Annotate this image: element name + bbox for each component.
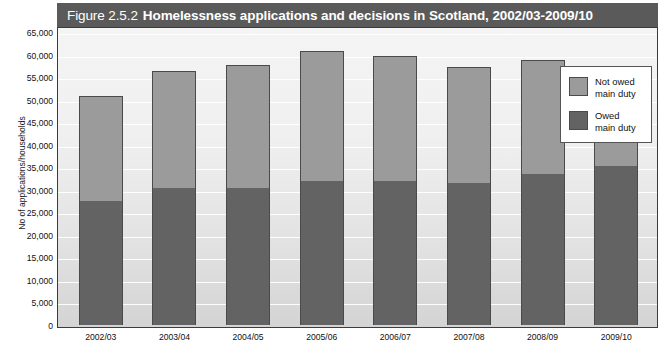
bar-segment-owed-main-duty[interactable] — [226, 188, 270, 325]
bar-segment-not-owed-main-duty[interactable] — [300, 51, 344, 181]
bar-segment-not-owed-main-duty[interactable] — [79, 96, 123, 201]
bar-segment-not-owed-main-duty[interactable] — [152, 71, 196, 187]
bar-segment-owed-main-duty[interactable] — [373, 181, 417, 325]
bar-segment-owed-main-duty[interactable] — [521, 174, 565, 325]
x-tick-label: 2003/04 — [159, 332, 190, 342]
figure-number: Figure 2.5.2 — [67, 8, 138, 23]
bar-segment-owed-main-duty[interactable] — [79, 201, 123, 325]
bar-segment-owed-main-duty[interactable] — [447, 183, 491, 325]
y-tick-label: 25,000 — [1, 208, 53, 218]
legend-label-not-owed-line1: Not owed — [595, 76, 635, 87]
gridline — [58, 304, 657, 305]
y-tick-label: 65,000 — [1, 28, 53, 38]
bar-segment-not-owed-main-duty[interactable] — [226, 65, 270, 188]
x-tick-label: 2007/08 — [453, 332, 484, 342]
gridline — [58, 147, 657, 148]
y-tick-label: 50,000 — [1, 96, 53, 106]
legend-swatch-not-owed-icon — [569, 77, 588, 96]
legend-label-owed-line2: main duty — [595, 122, 636, 133]
legend-label-not-owed-line2: main duty — [595, 88, 636, 99]
gridline — [58, 237, 657, 238]
figure-container: Figure 2.5.2 Homelessness applications a… — [0, 0, 662, 351]
bar-group[interactable] — [521, 32, 565, 325]
y-tick-label: 5,000 — [1, 298, 53, 308]
bar-segment-owed-main-duty[interactable] — [152, 188, 196, 325]
figure-title-text: Homelessness applications and decisions … — [143, 8, 593, 23]
legend-item-owed: Owed main duty — [569, 110, 644, 133]
bar-segment-owed-main-duty[interactable] — [594, 166, 638, 325]
y-tick-label: 15,000 — [1, 253, 53, 263]
gridline — [58, 259, 657, 260]
x-tick-label: 2005/06 — [306, 332, 337, 342]
gridline — [58, 169, 657, 170]
legend-label-owed: Owed main duty — [595, 110, 636, 133]
y-tick-label: 60,000 — [1, 51, 53, 61]
x-tick-label: 2008/09 — [527, 332, 558, 342]
y-tick-label: 40,000 — [1, 141, 53, 151]
legend-swatch-owed-icon — [569, 111, 588, 130]
chart-legend: Not owed main duty Owed main duty — [560, 66, 652, 143]
y-tick-label: 55,000 — [1, 73, 53, 83]
bar-segment-not-owed-main-duty[interactable] — [447, 67, 491, 183]
bar-segment-not-owed-main-duty[interactable] — [373, 56, 417, 181]
bar-group[interactable] — [300, 32, 344, 325]
gridline — [58, 214, 657, 215]
axis-baseline — [58, 327, 657, 328]
bar-group[interactable] — [79, 32, 123, 325]
figure-title-bar: Figure 2.5.2 Homelessness applications a… — [57, 3, 658, 27]
x-tick-label: 2006/07 — [380, 332, 411, 342]
legend-label-owed-line1: Owed — [595, 110, 620, 121]
gridline — [58, 57, 657, 58]
gridline — [58, 34, 657, 35]
bar-segment-not-owed-main-duty[interactable] — [521, 60, 565, 174]
x-tick-label: 2002/03 — [85, 332, 116, 342]
x-tick-label: 2004/05 — [233, 332, 264, 342]
legend-item-not-owed: Not owed main duty — [569, 76, 644, 99]
bar-group[interactable] — [373, 32, 417, 325]
y-tick-label: 35,000 — [1, 163, 53, 173]
y-tick-label: 45,000 — [1, 118, 53, 128]
y-tick-label: 0 — [1, 321, 53, 331]
gridline — [58, 192, 657, 193]
bar-group[interactable] — [152, 32, 196, 325]
y-tick-label: 10,000 — [1, 276, 53, 286]
y-tick-label: 20,000 — [1, 231, 53, 241]
bar-group[interactable] — [226, 32, 270, 325]
bar-segment-owed-main-duty[interactable] — [300, 181, 344, 325]
x-tick-label: 2009/10 — [601, 332, 632, 342]
legend-label-not-owed: Not owed main duty — [595, 76, 636, 99]
y-tick-label: 30,000 — [1, 186, 53, 196]
gridline — [58, 282, 657, 283]
bar-group[interactable] — [447, 32, 491, 325]
